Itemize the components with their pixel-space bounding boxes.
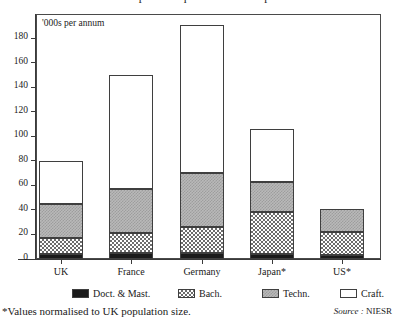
- bar-segment-craft: [250, 129, 294, 182]
- x-axis-label-france: France: [117, 266, 144, 277]
- bar-segment-techn: [250, 182, 294, 213]
- legend-swatch-icon: [178, 289, 195, 298]
- bar-segment-bach: [39, 238, 83, 254]
- legend-swatch-icon: [340, 289, 357, 298]
- bar-uk: [39, 0, 83, 259]
- bar-segment-bach: [250, 212, 294, 254]
- x-tick-mark: [272, 260, 273, 264]
- bar-segment-craft: [109, 75, 153, 189]
- x-tick-mark: [202, 260, 203, 264]
- bar-segment-craft: [180, 25, 224, 174]
- y-tick-mark: [31, 87, 36, 88]
- x-axis-line: [18, 259, 381, 260]
- bar-segment-doctmast: [250, 254, 294, 259]
- y-tick-mark: [31, 234, 36, 235]
- x-tick-mark: [131, 260, 132, 264]
- legend-swatch-icon: [262, 289, 279, 298]
- legend-item-doctmast[interactable]: Doct. & Mast.: [72, 288, 150, 299]
- x-axis-label-us: US*: [333, 266, 351, 277]
- chart-root: Comparative qualifications output '000s …: [0, 0, 395, 325]
- bar-segment-doctmast: [320, 255, 364, 259]
- footnote: *Values normalised to UK population size…: [2, 305, 191, 317]
- y-tick-mark: [31, 209, 36, 210]
- legend-label: Techn.: [283, 288, 310, 299]
- x-axis-label-uk: UK: [54, 266, 68, 277]
- legend-item-bach[interactable]: Bach.: [178, 288, 222, 299]
- y-tick-mark: [31, 136, 36, 137]
- y-tick-mark: [31, 160, 36, 161]
- y-tick-mark: [31, 185, 36, 186]
- bar-us: [320, 0, 364, 259]
- bar-segment-techn: [320, 209, 364, 232]
- bar-segment-bach: [180, 227, 224, 253]
- y-tick-label: 120: [14, 105, 28, 115]
- y-tick-label: 60: [19, 178, 29, 188]
- y-tick-mark: [31, 259, 36, 260]
- legend-item-craft[interactable]: Craft.: [340, 288, 384, 299]
- source-note: Source : NIESR: [334, 306, 392, 316]
- y-tick-label: 100: [14, 129, 28, 139]
- legend-swatch-icon: [72, 289, 89, 298]
- bar-segment-craft: [39, 161, 83, 204]
- bar-france: [109, 0, 153, 259]
- legend-label: Craft.: [361, 288, 384, 299]
- source-label: Source :: [334, 306, 364, 316]
- bar-segment-doctmast: [39, 254, 83, 259]
- y-tick-label: 140: [14, 80, 28, 90]
- y-tick-label: 80: [19, 154, 29, 164]
- bar-japan: [250, 0, 294, 259]
- x-axis-label-japan: Japan*: [258, 266, 286, 277]
- x-tick-mark: [61, 260, 62, 264]
- source-value: NIESR: [366, 306, 392, 316]
- x-tick-mark: [342, 260, 343, 264]
- y-tick-label: 160: [14, 56, 28, 66]
- x-axis-label-germany: Germany: [183, 266, 220, 277]
- legend-label: Doct. & Mast.: [93, 288, 150, 299]
- bar-segment-bach: [320, 232, 364, 255]
- y-tick-mark: [31, 38, 36, 39]
- y-tick-label: 20: [19, 227, 29, 237]
- bar-segment-bach: [109, 233, 153, 253]
- y-tick-label: 40: [19, 203, 29, 213]
- bar-segment-techn: [180, 173, 224, 227]
- bar-segment-doctmast: [109, 253, 153, 259]
- bar-segment-techn: [39, 204, 83, 238]
- chart-legend: Doct. & Mast.Bach.Techn.Craft.: [0, 288, 395, 302]
- y-tick-mark: [31, 62, 36, 63]
- y-tick-label: 0: [23, 252, 28, 262]
- bar-germany: [180, 0, 224, 259]
- y-tick-mark: [31, 111, 36, 112]
- y-tick-label: 180: [14, 31, 28, 41]
- legend-label: Bach.: [199, 288, 222, 299]
- bar-segment-techn: [109, 189, 153, 233]
- legend-item-techn[interactable]: Techn.: [262, 288, 310, 299]
- bar-segment-doctmast: [180, 253, 224, 259]
